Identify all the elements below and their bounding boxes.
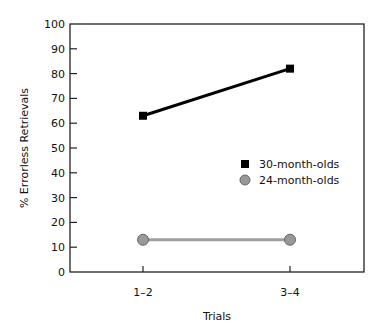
y-tick-label: 10 [51, 241, 65, 254]
plot-frame [70, 24, 364, 272]
y-tick-label: 30 [51, 192, 65, 205]
x-axis-label: Trials [202, 310, 231, 323]
circle-marker [285, 234, 296, 245]
legend-circle-icon [240, 175, 250, 185]
y-tick-label: 100 [44, 18, 65, 31]
y-tick-label: 70 [51, 92, 65, 105]
x-tick-label: 3–4 [280, 286, 300, 299]
y-tick-label: 90 [51, 43, 65, 56]
y-tick-label: 50 [51, 142, 65, 155]
chart: 01020304050607080901001–23–4Trials% Erro… [0, 0, 379, 330]
x-tick-label: 1–2 [133, 286, 153, 299]
y-tick-label: 80 [51, 68, 65, 81]
legend-label: 24-month-olds [259, 174, 340, 187]
y-tick-label: 20 [51, 216, 65, 229]
circle-marker [138, 234, 149, 245]
y-axis-label: % Errorless Retrievals [18, 88, 31, 208]
legend-label: 30-month-olds [259, 158, 340, 171]
series-line-0 [143, 69, 290, 116]
y-tick-label: 60 [51, 117, 65, 130]
y-tick-label: 40 [51, 167, 65, 180]
y-tick-label: 0 [58, 266, 65, 279]
square-marker [286, 65, 294, 73]
square-marker [139, 112, 147, 120]
legend-square-icon [241, 160, 249, 168]
